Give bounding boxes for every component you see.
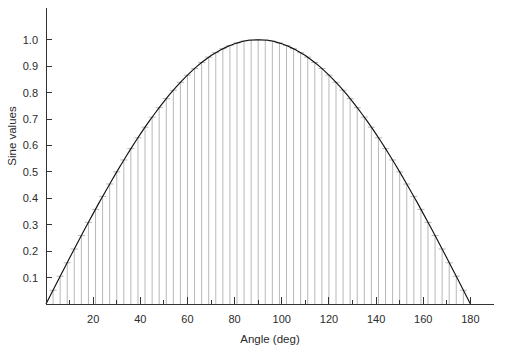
y-axis-title: Sine values: [6, 106, 18, 166]
x-tick-label: 20: [87, 313, 99, 325]
chart-figure: 0.10.20.30.40.50.60.70.80.91.02040608010…: [0, 0, 509, 345]
x-tick-label: 60: [181, 313, 193, 325]
y-tick-label: 1.0: [23, 34, 38, 46]
y-tick-label: 0.2: [23, 245, 38, 257]
y-tick-label: 0.6: [23, 139, 38, 151]
y-tick-label: 0.8: [23, 87, 38, 99]
y-tick-label: 0.1: [23, 272, 38, 284]
bars-layer: [50, 40, 467, 304]
x-tick-label: 40: [134, 313, 146, 325]
x-tick-label: 120: [320, 313, 338, 325]
y-tick-label: 0.3: [23, 219, 38, 231]
x-tick-label: 100: [273, 313, 291, 325]
sine-bar-chart: 0.10.20.30.40.50.60.70.80.91.02040608010…: [0, 0, 509, 345]
x-tick-label: 180: [461, 313, 479, 325]
axes-layer: [46, 8, 494, 304]
x-tick-label: 140: [367, 313, 385, 325]
x-axis-title: Angle (deg): [240, 333, 300, 345]
x-tick-label: 160: [414, 313, 432, 325]
y-tick-label: 0.4: [23, 192, 38, 204]
x-tick-label: 80: [229, 313, 241, 325]
y-tick-label: 0.5: [23, 166, 38, 178]
y-tick-label: 0.7: [23, 113, 38, 125]
y-tick-label: 0.9: [23, 60, 38, 72]
